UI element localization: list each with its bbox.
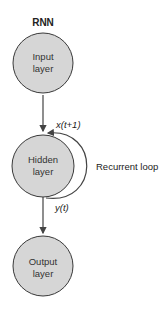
output-layer-node: Output layer <box>13 236 73 296</box>
hidden-layer-label-2: layer <box>33 166 54 177</box>
input-layer-node: Input layer <box>13 33 73 93</box>
recurrent-loop-label: Recurrent loop <box>96 161 158 172</box>
rnn-diagram: RNN Input layer Hidden layer Output laye… <box>0 0 168 312</box>
loop-input-label: x(t+1) <box>55 119 81 130</box>
loop-output-label: y(t) <box>54 202 69 213</box>
output-layer-label-2: layer <box>33 268 54 279</box>
hidden-layer-label-1: Hidden <box>28 154 58 165</box>
hidden-layer-node: Hidden layer <box>12 135 74 197</box>
diagram-title: RNN <box>32 17 54 28</box>
output-layer-label-1: Output <box>29 256 58 267</box>
input-layer-label-1: Input <box>32 51 53 62</box>
input-layer-label-2: layer <box>33 63 54 74</box>
